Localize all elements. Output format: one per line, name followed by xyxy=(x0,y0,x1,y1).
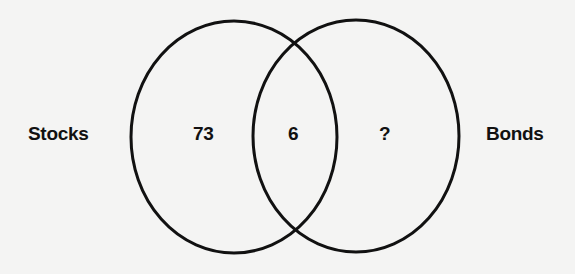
venn-diagram: Stocks 73 6 ? Bonds xyxy=(0,0,575,274)
stocks-set-label: Stocks xyxy=(28,124,89,143)
bonds-only-count: ? xyxy=(379,124,390,143)
stocks-only-count: 73 xyxy=(193,124,214,143)
bonds-circle xyxy=(253,20,459,252)
bonds-set-label: Bonds xyxy=(486,124,544,143)
intersection-count: 6 xyxy=(288,124,298,143)
stocks-circle xyxy=(131,21,337,253)
